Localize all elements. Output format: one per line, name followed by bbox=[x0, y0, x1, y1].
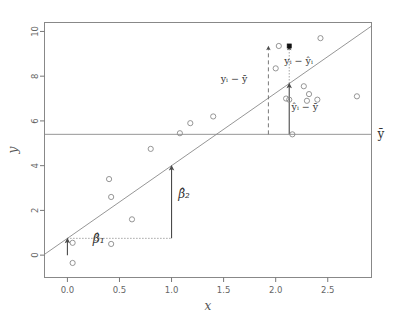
annotation-total-dev: yᵢ − ȳ bbox=[220, 73, 248, 84]
x-tick-label: 0.5 bbox=[113, 285, 127, 295]
annotation-beta2: β̂₂ bbox=[177, 187, 190, 201]
x-tick-label: 1.5 bbox=[217, 285, 231, 295]
x-tick-label: 2.0 bbox=[269, 285, 283, 295]
chart-canvas: 0.00.51.01.52.02.5 0246810 ȳ β̂₁β̂₂yᵢ −… bbox=[0, 0, 393, 321]
regression-decomposition-chart: 0.00.51.01.52.02.5 0246810 ȳ β̂₁β̂₂yᵢ −… bbox=[0, 0, 393, 321]
annotation-explained-dev: ŷᵢ − ȳ bbox=[291, 101, 319, 112]
chart-background bbox=[0, 0, 393, 321]
annotation-residual: yᵢ − ŷᵢ bbox=[283, 55, 313, 66]
annotation-beta1: β̂₁ bbox=[92, 232, 105, 246]
highlighted-data-point bbox=[287, 44, 291, 48]
x-tick-label: 0.0 bbox=[61, 285, 75, 295]
y-tick-label: 8 bbox=[31, 73, 41, 78]
y-tick-label: 2 bbox=[31, 208, 41, 213]
y-tick-label: 4 bbox=[31, 163, 41, 168]
y-tick-label: 10 bbox=[31, 26, 41, 37]
x-tick-label: 2.5 bbox=[321, 285, 335, 295]
mean-line-label: ȳ bbox=[377, 127, 385, 141]
y-tick-label: 0 bbox=[31, 252, 41, 257]
y-axis-label: y bbox=[6, 146, 20, 154]
y-tick-label: 6 bbox=[31, 118, 41, 123]
x-axis-label: x bbox=[205, 299, 212, 313]
x-tick-label: 1.0 bbox=[165, 285, 179, 295]
